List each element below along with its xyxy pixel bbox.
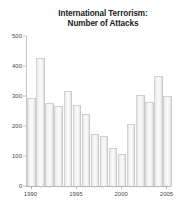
y-tick-label-200: 200 <box>12 123 26 129</box>
chart-figure: International Terrorism: Number of Attac… <box>0 0 175 213</box>
bar-1990 <box>27 98 36 186</box>
x-tick-mark-1996 <box>85 186 86 188</box>
bar-1997 <box>91 134 100 186</box>
plot-area: 0100200300400500 <box>26 36 171 186</box>
bar-1999 <box>109 148 118 187</box>
x-tick-mark-2001 <box>130 186 131 188</box>
x-tick-mark-2004 <box>157 186 158 188</box>
x-tick-label-1995: 1995 <box>69 191 82 197</box>
bar-2002 <box>136 95 145 186</box>
x-tick-mark-2000 <box>121 186 122 189</box>
bar-1993 <box>54 106 63 187</box>
chart-title: International Terrorism: Number of Attac… <box>36 9 170 29</box>
x-tick-mark-1993 <box>58 186 59 188</box>
x-tick-mark-2005 <box>166 186 167 189</box>
bar-2000 <box>118 154 127 186</box>
x-tick-mark-1990 <box>31 186 32 189</box>
bar-1995 <box>73 105 82 186</box>
chart-title-line-2: Number of Attacks <box>36 19 170 29</box>
x-tick-mark-1992 <box>49 186 50 188</box>
x-tick-mark-1995 <box>76 186 77 189</box>
y-tick-label-0: 0 <box>19 183 26 189</box>
y-tick-label-400: 400 <box>12 63 26 69</box>
y-tick-label-100: 100 <box>12 153 26 159</box>
bar-1992 <box>45 103 54 187</box>
bar-1991 <box>36 58 45 186</box>
x-tick-mark-1998 <box>103 186 104 188</box>
x-tick-mark-1991 <box>40 186 41 188</box>
chart-title-line-1: International Terrorism: <box>36 9 170 19</box>
bar-1994 <box>64 91 73 187</box>
y-tick-label-500: 500 <box>12 33 26 39</box>
x-tick-mark-1999 <box>112 186 113 188</box>
x-tick-label-1990: 1990 <box>24 191 37 197</box>
x-tick-mark-1994 <box>67 186 68 188</box>
bar-2001 <box>127 124 136 187</box>
x-tick-mark-2002 <box>139 186 140 188</box>
x-tick-mark-1997 <box>94 186 95 188</box>
x-tick-mark-2003 <box>148 186 149 188</box>
bar-2003 <box>145 102 154 186</box>
bar-2005 <box>163 96 172 186</box>
bar-2004 <box>154 76 163 187</box>
x-tick-label-2000: 2000 <box>114 191 127 197</box>
bar-1996 <box>82 114 91 186</box>
x-tick-label-2005: 2005 <box>160 191 173 197</box>
bar-1998 <box>100 136 109 186</box>
y-tick-label-300: 300 <box>12 93 26 99</box>
